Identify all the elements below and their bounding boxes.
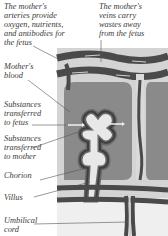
label-villus: Villus: [4, 193, 23, 202]
label-arteries: The mother's arteries provide oxygen, nu…: [4, 2, 65, 47]
chorion-band: [57, 187, 168, 190]
label-umbilical-cord: Umbilical cord: [4, 216, 37, 234]
umbilical-cord: [126, 196, 127, 236]
label-mothers-blood: Mother's blood: [4, 62, 33, 80]
label-substances-to-mother: Substances transferred to mother: [4, 134, 41, 161]
label-substances-to-fetus: Substances transferred to fetus: [4, 100, 41, 127]
label-chorion: Chorion: [4, 171, 32, 180]
mothers-blood-pool-right: [146, 82, 168, 180]
fetal-side-region: [57, 198, 168, 236]
label-veins: The mother's veins carry wastes away fro…: [99, 2, 144, 38]
